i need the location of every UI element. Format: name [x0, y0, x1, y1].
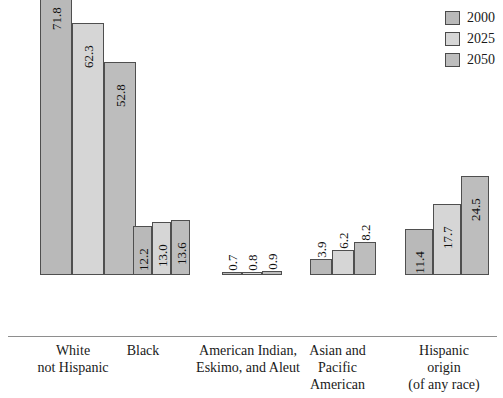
bar-column: 11.4 — [405, 0, 433, 275]
category-label-line: Eskimo, and Aleut — [192, 360, 304, 377]
bar-group-bars: 0.70.80.9 — [222, 0, 282, 275]
bar-value-label: 0.7 — [226, 255, 239, 271]
legend-swatch-icon — [445, 11, 460, 25]
legend-label: 2000 — [467, 11, 495, 25]
bar-column: 71.8 — [40, 0, 72, 275]
chart-legend: 200020252050 — [445, 10, 495, 67]
bar: 3.9 — [310, 259, 332, 275]
category-label-line: (of any race) — [392, 377, 496, 394]
bar: 12.2 — [133, 226, 152, 275]
bar: 13.6 — [171, 220, 190, 275]
category-label-line: American — [290, 377, 385, 394]
bar-group-bars: 71.862.352.8 — [40, 0, 136, 275]
bar-group: 71.862.352.8 — [40, 0, 136, 275]
bar-value-label: 17.7 — [441, 226, 454, 249]
category-label: Asian andPacificAmerican — [290, 343, 385, 393]
category-label-line: origin — [392, 360, 496, 377]
category-label: American Indian,Eskimo, and Aleut — [192, 343, 304, 377]
bar-value-label: 11.4 — [413, 251, 426, 273]
category-label-line: Hispanic — [392, 343, 496, 360]
bar-group-bars: 3.96.28.2 — [310, 0, 376, 275]
bar: 17.7 — [433, 204, 461, 276]
legend-item: 2050 — [445, 52, 495, 67]
bar-column: 12.2 — [133, 0, 152, 275]
bar: 0.9 — [262, 271, 282, 275]
bar-column: 13.0 — [152, 0, 171, 275]
bar-column: 52.8 — [104, 0, 136, 275]
category-label-line: Black — [108, 343, 178, 360]
bar: 52.8 — [104, 62, 136, 275]
bar-column: 8.2 — [354, 0, 376, 275]
bar-group: 0.70.80.9 — [222, 0, 282, 275]
category-label-line: American Indian, — [192, 343, 304, 360]
legend-item: 2025 — [445, 31, 495, 46]
legend-item: 2000 — [445, 10, 495, 25]
bar-column: 0.8 — [242, 0, 262, 275]
bar-group: 3.96.28.2 — [310, 0, 376, 275]
bar-value-label: 24.5 — [469, 198, 482, 221]
bar-group-bars: 12.213.013.6 — [133, 0, 190, 275]
bar-group: 12.213.013.6 — [133, 0, 190, 275]
bar: 11.4 — [405, 229, 433, 275]
category-label: Hispanicorigin(of any race) — [392, 343, 496, 393]
bar-value-label: 3.9 — [315, 242, 328, 258]
bar-value-label: 13.6 — [174, 242, 187, 265]
plot-area: 71.862.352.812.213.013.60.70.80.93.96.28… — [0, 0, 503, 337]
x-axis-line — [8, 336, 497, 337]
bar: 8.2 — [354, 242, 376, 275]
bar-column: 13.6 — [171, 0, 190, 275]
legend-label: 2025 — [467, 32, 495, 46]
bar-value-label: 71.8 — [50, 7, 63, 30]
category-label-line: not Hispanic — [18, 360, 128, 377]
bar: 13.0 — [152, 222, 171, 275]
bar: 62.3 — [72, 23, 104, 275]
bar-value-label: 0.8 — [246, 254, 259, 270]
category-label-line: Pacific — [290, 360, 385, 377]
bar-column: 0.7 — [222, 0, 242, 275]
bar: 0.7 — [222, 272, 242, 275]
grouped-bar-chart: 71.862.352.812.213.013.60.70.80.93.96.28… — [0, 0, 503, 398]
bar-column: 62.3 — [72, 0, 104, 275]
bar: 24.5 — [461, 176, 489, 275]
bar-value-label: 6.2 — [337, 232, 350, 248]
bar: 0.8 — [242, 272, 262, 275]
bar-value-label: 8.2 — [359, 224, 372, 240]
bar-value-label: 13.0 — [155, 245, 168, 268]
bar-value-label: 0.9 — [266, 254, 279, 270]
bar-column: 3.9 — [310, 0, 332, 275]
category-label-line: Asian and — [290, 343, 385, 360]
bar-value-label: 62.3 — [82, 45, 95, 68]
bar-value-label: 52.8 — [114, 84, 127, 107]
bar: 71.8 — [40, 0, 72, 275]
legend-swatch-icon — [445, 53, 460, 67]
bar: 6.2 — [332, 250, 354, 275]
legend-swatch-icon — [445, 32, 460, 46]
legend-label: 2050 — [467, 53, 495, 67]
category-label: Black — [108, 343, 178, 360]
bar-column: 6.2 — [332, 0, 354, 275]
bar-column: 0.9 — [262, 0, 282, 275]
bar-value-label: 12.2 — [136, 248, 149, 271]
